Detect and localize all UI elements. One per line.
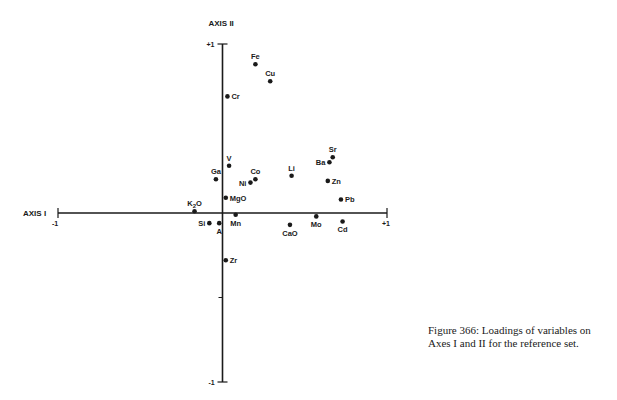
axes: -1+1+1-1AXIS IAXIS II <box>23 19 390 386</box>
point-label-v: V <box>227 154 232 163</box>
x-axis-title: AXIS I <box>23 209 46 218</box>
y-tick-label-max: +1 <box>207 41 215 48</box>
point-ni <box>248 180 253 185</box>
point-a <box>217 221 222 226</box>
point-ba <box>327 160 332 165</box>
point-v <box>227 163 232 168</box>
x-tick-label-max: +1 <box>382 220 390 227</box>
point-label-fe: Fe <box>251 52 260 61</box>
y-tick-label-min: -1 <box>209 379 215 386</box>
point-label-si: Si <box>198 219 205 228</box>
point-cr <box>225 94 230 99</box>
point-label-zr: Zr <box>230 256 238 265</box>
point-label-sr: Sr <box>329 145 337 154</box>
point-label-a: A <box>216 227 222 236</box>
point-cd <box>340 219 345 224</box>
point-label-cr: Cr <box>231 92 239 101</box>
point-label-zn: Zn <box>332 177 342 186</box>
point-label-ga: Ga <box>211 167 222 176</box>
point-cao <box>288 223 293 228</box>
point-label-co: Co <box>250 167 260 176</box>
point-pb <box>339 197 344 202</box>
points: FeCuCrVGaCoNiLiSrBaZnPbMgOK2OMnSiACaOMoC… <box>187 52 355 265</box>
point-label-mn: Mn <box>230 219 241 228</box>
point-zn <box>325 179 330 184</box>
point-mo <box>314 214 319 219</box>
point-ga <box>214 177 219 182</box>
point-cu <box>268 79 273 84</box>
point-label-ba: Ba <box>316 158 326 167</box>
point-li <box>289 174 294 179</box>
point-mgo <box>223 195 228 200</box>
point-fe <box>253 62 258 67</box>
figure-caption: Figure 366: Loadings of variables on Axe… <box>428 324 613 350</box>
point-label-li: Li <box>288 164 295 173</box>
point-si <box>207 221 212 226</box>
point-zr <box>223 258 228 263</box>
point-label-cu: Cu <box>265 69 275 78</box>
y-axis-title: AXIS II <box>209 19 234 28</box>
point-co <box>253 177 258 182</box>
point-sr <box>330 155 335 160</box>
point-label-cd: Cd <box>338 225 348 234</box>
point-label-cao: CaO <box>282 229 298 238</box>
point-k2o <box>192 209 197 214</box>
point-mn <box>233 212 238 217</box>
point-label-mgo: MgO <box>230 194 247 203</box>
point-label-k2o: K2O <box>187 199 202 209</box>
point-label-ni: Ni <box>239 179 247 188</box>
point-label-mo: Mo <box>311 220 322 229</box>
point-label-pb: Pb <box>345 195 355 204</box>
x-tick-label-min: -1 <box>52 220 58 227</box>
